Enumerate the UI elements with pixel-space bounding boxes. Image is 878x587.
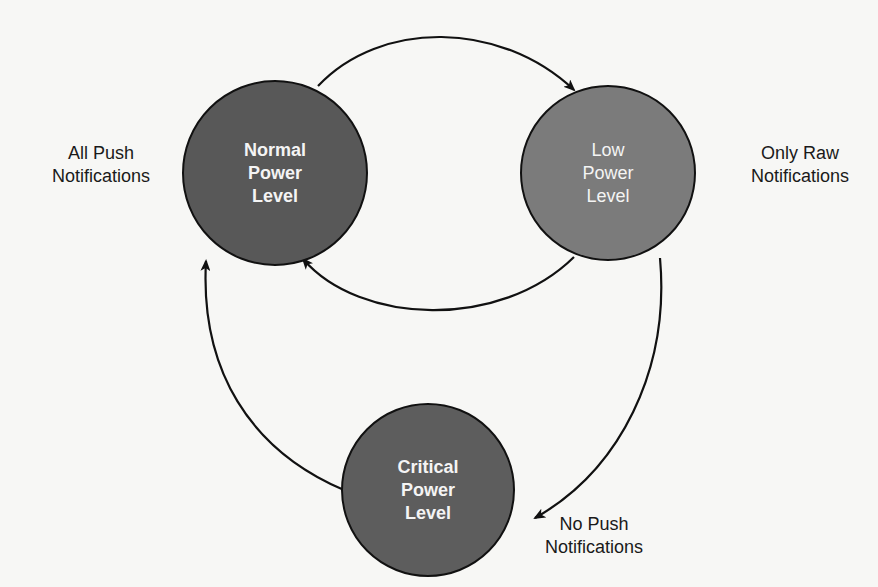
state-critical-power-level: Critical Power Level: [341, 403, 515, 577]
arrow-critical-to-normal: [206, 261, 344, 490]
notification-label-all-push: All Push Notifications: [40, 142, 162, 188]
state-label-line: Low: [591, 139, 624, 162]
arrow-normal-to-low: [318, 37, 574, 90]
state-label-line: Normal: [244, 139, 306, 162]
state-label-line: Critical: [397, 456, 458, 479]
state-label-line: Level: [586, 185, 629, 208]
state-label-line: Power: [248, 162, 302, 185]
state-low-power-level: Low Power Level: [520, 85, 696, 261]
label-line: Notifications: [530, 536, 658, 559]
label-line: Notifications: [40, 165, 162, 188]
label-line: Notifications: [736, 165, 864, 188]
notification-label-only-raw: Only Raw Notifications: [736, 142, 864, 188]
arrow-low-to-critical: [535, 258, 661, 518]
state-label-line: Level: [405, 502, 451, 525]
state-label-line: Power: [582, 162, 633, 185]
label-line: Only Raw: [736, 142, 864, 165]
arrow-low-to-normal: [303, 257, 574, 310]
notification-label-no-push: No Push Notifications: [530, 513, 658, 559]
state-label-line: Power: [401, 479, 455, 502]
label-line: No Push: [530, 513, 658, 536]
state-label-line: Level: [252, 185, 298, 208]
label-line: All Push: [40, 142, 162, 165]
state-normal-power-level: Normal Power Level: [182, 80, 368, 266]
